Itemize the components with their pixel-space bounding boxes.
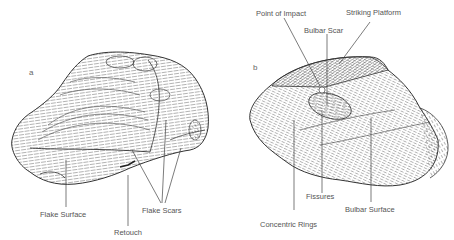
panel-label-a: a: [29, 68, 33, 77]
label-concentric-rings: Concentric Rings: [260, 221, 317, 229]
label-retouch: Retouch: [114, 229, 142, 237]
label-fissures: Fissures: [306, 193, 334, 201]
flake-b: [250, 57, 448, 186]
flake-a: [12, 52, 209, 184]
label-flake-surface: Flake Surface: [40, 211, 86, 219]
flake-drawings: [0, 0, 454, 240]
panel-label-b: b: [253, 63, 257, 72]
label-striking-platform: Striking Platform: [346, 9, 401, 17]
flint-flake-illustration: a b Flake Surface Retouch Flake Scars Po…: [0, 0, 454, 240]
label-bulbar-scar: Bulbar Scar: [304, 27, 343, 35]
label-point-of-impact: Point of Impact: [256, 10, 306, 18]
label-flake-scars: Flake Scars: [142, 207, 182, 215]
label-bulbar-surface: Bulbar Surface: [345, 206, 395, 214]
